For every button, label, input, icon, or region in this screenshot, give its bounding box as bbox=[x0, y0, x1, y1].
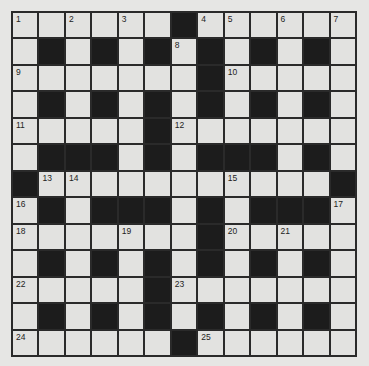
answer-cell[interactable] bbox=[13, 39, 37, 63]
answer-cell[interactable]: 16 bbox=[13, 198, 37, 222]
answer-cell[interactable] bbox=[119, 172, 143, 196]
answer-cell[interactable]: 4 bbox=[198, 13, 222, 37]
answer-cell[interactable] bbox=[172, 92, 196, 116]
answer-cell[interactable]: 23 bbox=[172, 278, 196, 302]
answer-cell[interactable] bbox=[172, 304, 196, 328]
answer-cell[interactable] bbox=[39, 331, 63, 355]
answer-cell[interactable] bbox=[198, 278, 222, 302]
answer-cell[interactable] bbox=[198, 119, 222, 143]
answer-cell[interactable] bbox=[278, 331, 302, 355]
answer-cell[interactable]: 12 bbox=[172, 119, 196, 143]
answer-cell[interactable] bbox=[251, 13, 275, 37]
answer-cell[interactable] bbox=[278, 119, 302, 143]
answer-cell[interactable] bbox=[13, 145, 37, 169]
answer-cell[interactable]: 22 bbox=[13, 278, 37, 302]
answer-cell[interactable]: 10 bbox=[225, 66, 249, 90]
answer-cell[interactable] bbox=[13, 304, 37, 328]
answer-cell[interactable] bbox=[225, 198, 249, 222]
answer-cell[interactable] bbox=[39, 225, 63, 249]
answer-cell[interactable] bbox=[331, 225, 355, 249]
answer-cell[interactable] bbox=[66, 92, 90, 116]
answer-cell[interactable] bbox=[304, 278, 328, 302]
answer-cell[interactable] bbox=[39, 119, 63, 143]
answer-cell[interactable] bbox=[304, 225, 328, 249]
answer-cell[interactable]: 11 bbox=[13, 119, 37, 143]
answer-cell[interactable]: 8 bbox=[172, 39, 196, 63]
answer-cell[interactable] bbox=[304, 119, 328, 143]
answer-cell[interactable]: 20 bbox=[225, 225, 249, 249]
answer-cell[interactable] bbox=[225, 251, 249, 275]
answer-cell[interactable] bbox=[119, 145, 143, 169]
answer-cell[interactable]: 25 bbox=[198, 331, 222, 355]
answer-cell[interactable] bbox=[66, 304, 90, 328]
answer-cell[interactable] bbox=[331, 145, 355, 169]
answer-cell[interactable] bbox=[66, 225, 90, 249]
answer-cell[interactable] bbox=[145, 331, 169, 355]
answer-cell[interactable] bbox=[225, 39, 249, 63]
answer-cell[interactable] bbox=[278, 66, 302, 90]
answer-cell[interactable] bbox=[119, 331, 143, 355]
answer-cell[interactable] bbox=[331, 304, 355, 328]
answer-cell[interactable] bbox=[278, 172, 302, 196]
answer-cell[interactable] bbox=[331, 66, 355, 90]
answer-cell[interactable] bbox=[92, 119, 116, 143]
answer-cell[interactable] bbox=[172, 145, 196, 169]
answer-cell[interactable]: 18 bbox=[13, 225, 37, 249]
answer-cell[interactable] bbox=[39, 13, 63, 37]
answer-cell[interactable] bbox=[172, 172, 196, 196]
answer-cell[interactable] bbox=[172, 251, 196, 275]
answer-cell[interactable] bbox=[331, 278, 355, 302]
answer-cell[interactable] bbox=[225, 278, 249, 302]
answer-cell[interactable] bbox=[225, 92, 249, 116]
answer-cell[interactable]: 2 bbox=[66, 13, 90, 37]
answer-cell[interactable] bbox=[304, 66, 328, 90]
answer-cell[interactable] bbox=[304, 331, 328, 355]
answer-cell[interactable] bbox=[198, 172, 222, 196]
answer-cell[interactable]: 21 bbox=[278, 225, 302, 249]
answer-cell[interactable]: 17 bbox=[331, 198, 355, 222]
answer-cell[interactable]: 7 bbox=[331, 13, 355, 37]
answer-cell[interactable] bbox=[66, 39, 90, 63]
answer-cell[interactable] bbox=[251, 172, 275, 196]
answer-cell[interactable] bbox=[92, 278, 116, 302]
answer-cell[interactable] bbox=[119, 39, 143, 63]
answer-cell[interactable] bbox=[13, 92, 37, 116]
answer-cell[interactable]: 19 bbox=[119, 225, 143, 249]
answer-cell[interactable] bbox=[251, 119, 275, 143]
answer-cell[interactable]: 5 bbox=[225, 13, 249, 37]
answer-cell[interactable] bbox=[145, 66, 169, 90]
answer-cell[interactable] bbox=[66, 251, 90, 275]
answer-cell[interactable] bbox=[278, 145, 302, 169]
answer-cell[interactable] bbox=[39, 278, 63, 302]
answer-cell[interactable] bbox=[331, 92, 355, 116]
answer-cell[interactable]: 14 bbox=[66, 172, 90, 196]
answer-cell[interactable] bbox=[225, 331, 249, 355]
answer-cell[interactable] bbox=[145, 172, 169, 196]
answer-cell[interactable] bbox=[278, 92, 302, 116]
answer-cell[interactable]: 13 bbox=[39, 172, 63, 196]
answer-cell[interactable] bbox=[304, 172, 328, 196]
answer-cell[interactable] bbox=[225, 304, 249, 328]
answer-cell[interactable] bbox=[66, 198, 90, 222]
answer-cell[interactable]: 24 bbox=[13, 331, 37, 355]
answer-cell[interactable]: 3 bbox=[119, 13, 143, 37]
answer-cell[interactable] bbox=[278, 39, 302, 63]
answer-cell[interactable] bbox=[331, 331, 355, 355]
answer-cell[interactable] bbox=[92, 66, 116, 90]
answer-cell[interactable] bbox=[331, 119, 355, 143]
answer-cell[interactable] bbox=[304, 13, 328, 37]
answer-cell[interactable] bbox=[119, 251, 143, 275]
answer-cell[interactable] bbox=[145, 225, 169, 249]
answer-cell[interactable] bbox=[278, 304, 302, 328]
answer-cell[interactable] bbox=[172, 198, 196, 222]
answer-cell[interactable] bbox=[66, 331, 90, 355]
answer-cell[interactable] bbox=[251, 278, 275, 302]
answer-cell[interactable] bbox=[278, 278, 302, 302]
answer-cell[interactable] bbox=[13, 251, 37, 275]
answer-cell[interactable] bbox=[119, 119, 143, 143]
answer-cell[interactable] bbox=[145, 13, 169, 37]
answer-cell[interactable] bbox=[251, 66, 275, 90]
answer-cell[interactable] bbox=[278, 251, 302, 275]
answer-cell[interactable] bbox=[92, 172, 116, 196]
answer-cell[interactable] bbox=[225, 119, 249, 143]
